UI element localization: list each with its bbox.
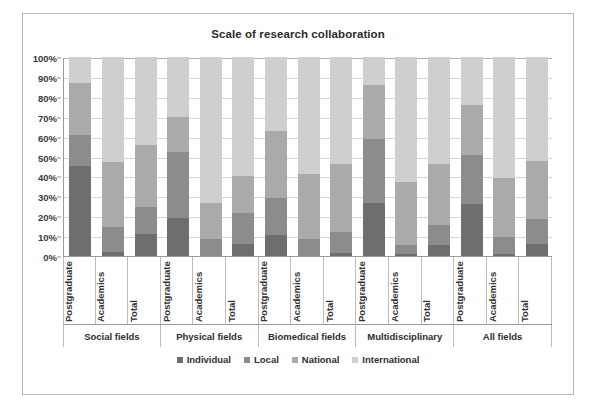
legend-label: International xyxy=(362,354,419,365)
bar-column[interactable] xyxy=(135,57,157,256)
legend-item[interactable]: Individual xyxy=(177,354,231,365)
y-tick-mark xyxy=(57,97,61,98)
bar-segment-local[interactable] xyxy=(363,139,385,204)
bar-segment-local[interactable] xyxy=(265,198,287,235)
bar-segment-local[interactable] xyxy=(298,239,320,256)
bar-segment-international[interactable] xyxy=(69,57,91,83)
bar-segment-national[interactable] xyxy=(428,164,450,225)
bar-segment-individual[interactable] xyxy=(135,234,157,256)
legend-label: Individual xyxy=(187,354,231,365)
chart-container: Scale of research collaboration 0%10%20%… xyxy=(22,13,574,395)
bar-segment-local[interactable] xyxy=(461,155,483,205)
x-axis-category-labels: PostgraduateAcademicsTotalPostgraduateAc… xyxy=(63,257,552,325)
bar-segment-international[interactable] xyxy=(135,57,157,145)
bar-column[interactable] xyxy=(298,57,320,256)
legend-swatch-icon xyxy=(292,357,298,363)
bar-segment-international[interactable] xyxy=(526,57,548,161)
bar-segment-individual[interactable] xyxy=(526,244,548,256)
x-axis-label: Postgraduate xyxy=(63,261,74,322)
bar-segment-international[interactable] xyxy=(330,57,352,164)
x-axis-label: Total xyxy=(519,300,530,322)
bar-segment-local[interactable] xyxy=(135,207,157,234)
bar-column[interactable] xyxy=(265,57,287,256)
bar-segment-individual[interactable] xyxy=(167,218,189,256)
y-axis: 0%10%20%30%40%50%60%70%80%90%100% xyxy=(23,58,61,257)
bar-segment-international[interactable] xyxy=(461,57,483,105)
bar-segment-local[interactable] xyxy=(493,237,515,254)
bar-segment-national[interactable] xyxy=(298,174,320,239)
bar-segment-local[interactable] xyxy=(330,232,352,253)
bar-segment-international[interactable] xyxy=(200,57,222,203)
bar-column[interactable] xyxy=(395,57,417,256)
bar-segment-individual[interactable] xyxy=(428,245,450,256)
bar-segment-national[interactable] xyxy=(265,131,287,199)
bar-segment-local[interactable] xyxy=(102,227,124,252)
bar-segment-local[interactable] xyxy=(526,219,548,244)
y-tick-mark xyxy=(57,217,61,218)
y-tick-mark xyxy=(57,77,61,78)
legend-swatch-icon xyxy=(352,357,358,363)
bar-segment-international[interactable] xyxy=(232,57,254,176)
bar-segment-international[interactable] xyxy=(363,57,385,85)
bar-column[interactable] xyxy=(526,57,548,256)
bar-segment-national[interactable] xyxy=(395,182,417,245)
x-axis-group-label: Biomedical fields xyxy=(259,325,357,347)
x-axis-label: Academics xyxy=(95,272,106,322)
bar-column[interactable] xyxy=(363,57,385,256)
bar-segment-local[interactable] xyxy=(200,239,222,256)
bar-column[interactable] xyxy=(69,57,91,256)
bar-column[interactable] xyxy=(493,57,515,256)
bar-segment-international[interactable] xyxy=(102,57,124,162)
bar-segment-national[interactable] xyxy=(232,176,254,213)
bar-segment-individual[interactable] xyxy=(461,204,483,256)
bar-segment-national[interactable] xyxy=(330,164,352,232)
legend-item[interactable]: International xyxy=(352,354,419,365)
x-axis-group-label: Physical fields xyxy=(161,325,259,347)
bar-segment-local[interactable] xyxy=(232,213,254,244)
bar-segment-individual[interactable] xyxy=(330,253,352,256)
y-tick-label: 30% xyxy=(38,192,57,203)
bar-segment-national[interactable] xyxy=(69,83,91,135)
bar-segment-local[interactable] xyxy=(428,225,450,245)
bar-segment-international[interactable] xyxy=(428,57,450,164)
bar-segment-individual[interactable] xyxy=(102,252,124,256)
y-tick-label: 0% xyxy=(43,252,57,263)
bar-column[interactable] xyxy=(167,57,189,256)
bar-column[interactable] xyxy=(232,57,254,256)
bar-column[interactable] xyxy=(102,57,124,256)
bar-segment-local[interactable] xyxy=(69,135,91,167)
bar-segment-local[interactable] xyxy=(167,152,189,219)
x-axis-label: Total xyxy=(226,300,237,322)
bar-column[interactable] xyxy=(428,57,450,256)
bar-segment-national[interactable] xyxy=(461,105,483,155)
bar-column[interactable] xyxy=(330,57,352,256)
bar-segment-national[interactable] xyxy=(493,178,515,237)
x-axis-cell: Total xyxy=(128,257,161,324)
bar-segment-local[interactable] xyxy=(395,245,417,254)
bar-segment-national[interactable] xyxy=(102,162,124,227)
bar-segment-national[interactable] xyxy=(363,85,385,139)
bar-segment-international[interactable] xyxy=(298,57,320,174)
x-axis-cell: Total xyxy=(226,257,259,324)
bar-segment-national[interactable] xyxy=(135,145,157,208)
legend-item[interactable]: Local xyxy=(244,354,279,365)
bar-segment-international[interactable] xyxy=(167,57,189,117)
bar-segment-national[interactable] xyxy=(526,161,548,219)
bar-segment-national[interactable] xyxy=(167,117,189,152)
bar-segment-individual[interactable] xyxy=(265,235,287,256)
bar-segment-individual[interactable] xyxy=(395,254,417,256)
y-tick-label: 40% xyxy=(38,172,57,183)
bar-segment-individual[interactable] xyxy=(363,203,385,256)
bar-column[interactable] xyxy=(200,57,222,256)
bar-segment-international[interactable] xyxy=(395,57,417,182)
bar-segment-national[interactable] xyxy=(200,203,222,239)
bar-segment-individual[interactable] xyxy=(232,244,254,256)
bar-segment-individual[interactable] xyxy=(69,166,91,256)
x-axis-group-labels: Social fieldsPhysical fieldsBiomedical f… xyxy=(63,325,552,347)
bar-segment-individual[interactable] xyxy=(493,254,515,256)
y-tick-label: 80% xyxy=(38,92,57,103)
bar-column[interactable] xyxy=(461,57,483,256)
bar-segment-international[interactable] xyxy=(493,57,515,178)
bar-segment-international[interactable] xyxy=(265,57,287,131)
legend-item[interactable]: National xyxy=(292,354,339,365)
